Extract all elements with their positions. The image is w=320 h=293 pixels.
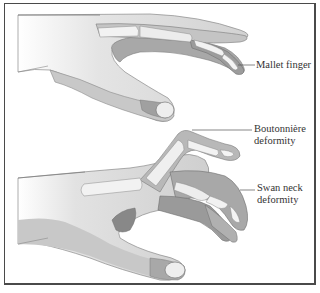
label-boutonniere-line2: deformity bbox=[254, 135, 306, 147]
label-swan-line2: deformity bbox=[257, 194, 303, 206]
label-boutonniere-line1: Boutonnière bbox=[254, 123, 306, 135]
label-swan-neck-deformity: Swan neck deformity bbox=[257, 182, 303, 206]
top-hand bbox=[18, 14, 248, 122]
label-boutonniere-deformity: Boutonnière deformity bbox=[254, 123, 306, 147]
label-mallet-finger: Mallet finger bbox=[256, 59, 311, 71]
label-swan-line1: Swan neck bbox=[257, 182, 303, 194]
bottom-hand bbox=[18, 130, 248, 280]
